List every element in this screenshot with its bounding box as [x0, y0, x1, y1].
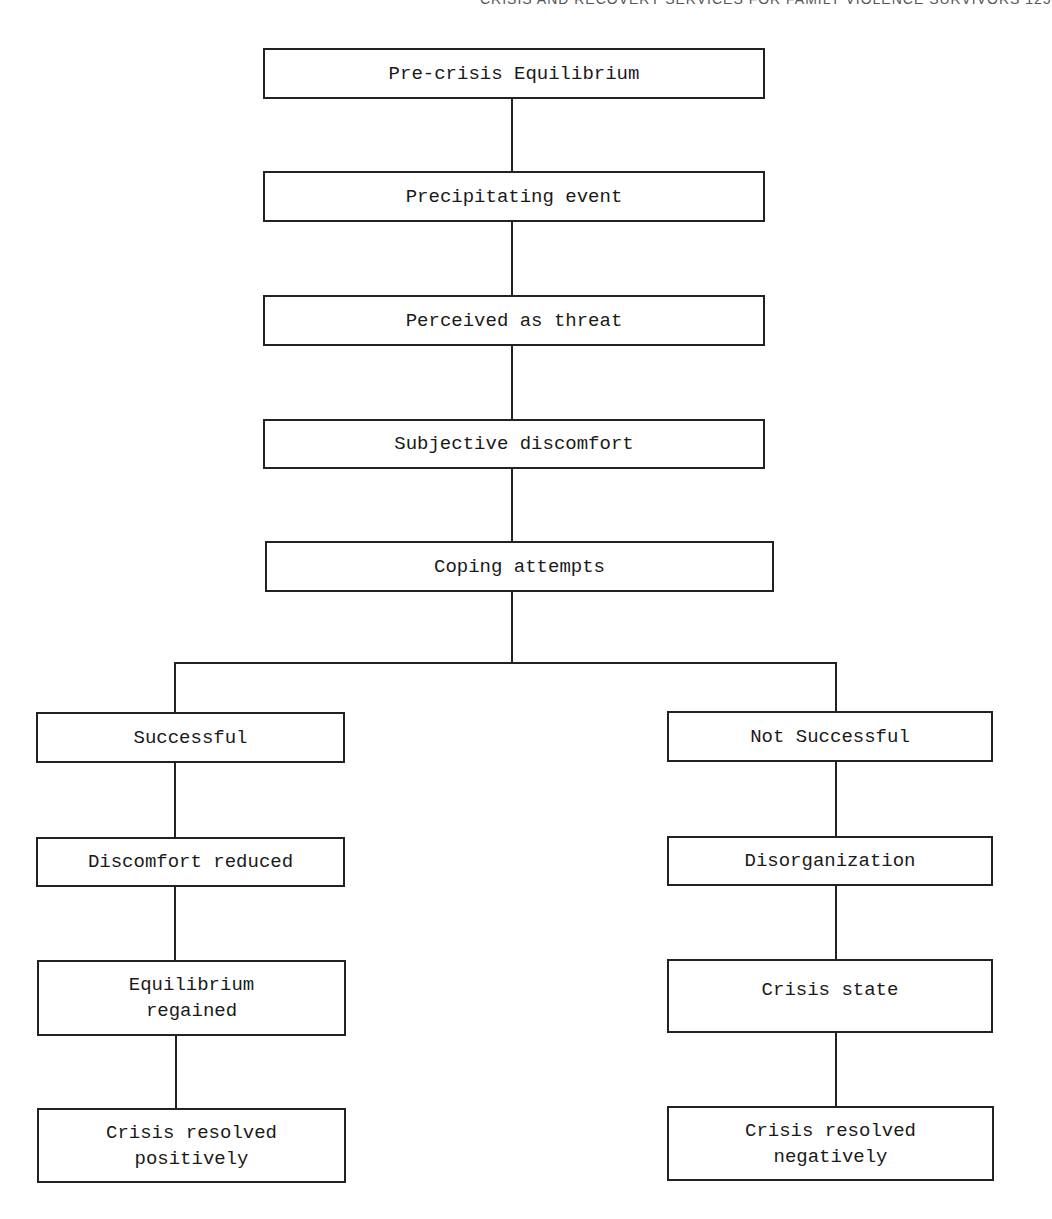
- running-header: CRISIS AND RECOVERY SERVICES FOR FAMILY …: [480, 0, 1040, 7]
- box-coping-attempts: Coping attempts: [265, 541, 774, 592]
- connector: [511, 346, 513, 419]
- box-label: Coping attempts: [434, 554, 605, 580]
- box-successful: Successful: [36, 712, 345, 763]
- box-label: Disorganization: [744, 848, 915, 874]
- connector: [174, 662, 176, 712]
- box-crisis-state: Crisis state: [667, 959, 993, 1033]
- connector: [174, 887, 176, 960]
- connector: [835, 762, 837, 836]
- connector: [835, 1033, 837, 1106]
- connector: [175, 1036, 177, 1108]
- box-disorganization: Disorganization: [667, 836, 993, 886]
- box-label: Discomfort reduced: [88, 849, 293, 875]
- box-pre-crisis-equilibrium: Pre-crisis Equilibrium: [263, 48, 765, 99]
- box-label: Precipitating event: [406, 184, 623, 210]
- box-label: Crisis resolved negatively: [745, 1118, 916, 1170]
- box-discomfort-reduced: Discomfort reduced: [36, 837, 345, 887]
- box-precipitating-event: Precipitating event: [263, 171, 765, 222]
- box-label: Crisis resolved positively: [106, 1120, 277, 1172]
- box-perceived-as-threat: Perceived as threat: [263, 295, 765, 346]
- box-label: Crisis state: [762, 977, 899, 1003]
- box-label: Subjective discomfort: [394, 431, 633, 457]
- box-label: Successful: [133, 725, 247, 751]
- box-equilibrium-regained: Equilibrium regained: [37, 960, 346, 1036]
- connector: [835, 662, 837, 711]
- box-crisis-resolved-positively: Crisis resolved positively: [37, 1108, 346, 1183]
- connector: [511, 222, 513, 295]
- box-not-successful: Not Successful: [667, 711, 993, 762]
- connector: [511, 592, 513, 663]
- box-label: Equilibrium regained: [129, 972, 254, 1024]
- connector: [174, 763, 176, 837]
- connector: [511, 469, 513, 541]
- box-subjective-discomfort: Subjective discomfort: [263, 419, 765, 469]
- box-label: Pre-crisis Equilibrium: [389, 61, 640, 87]
- connector: [835, 886, 837, 959]
- branch-connector: [174, 662, 837, 664]
- connector: [511, 99, 513, 171]
- box-label: Not Successful: [750, 724, 910, 750]
- box-label: Perceived as threat: [406, 308, 623, 334]
- box-crisis-resolved-negatively: Crisis resolved negatively: [667, 1106, 994, 1181]
